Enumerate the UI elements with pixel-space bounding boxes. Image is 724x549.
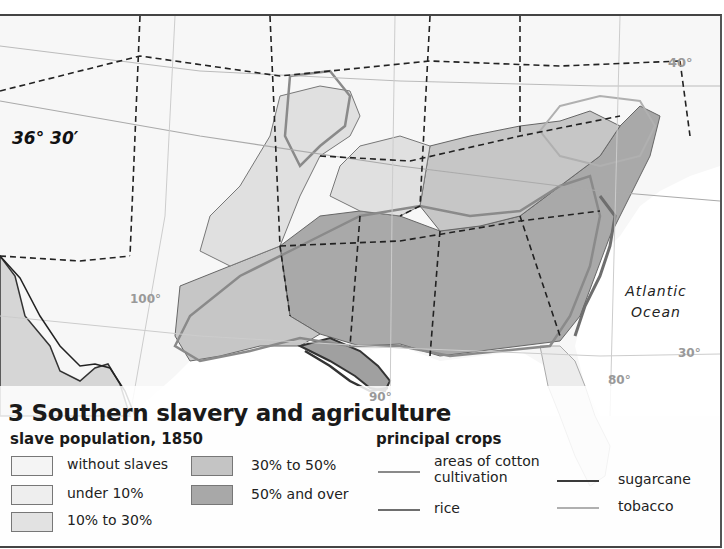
cotton-line-sample: [378, 471, 420, 473]
swatch-without-slaves: [11, 456, 53, 476]
legend-label-without-slaves: without slaves: [67, 456, 168, 472]
slave-population-legend-title: slave population, 1850: [10, 430, 203, 448]
legend-label-30-to-50: 30% to 50%: [251, 457, 336, 473]
legend-label-under-10: under 10%: [67, 485, 144, 501]
latitude-line-40: [0, 46, 720, 86]
legend-label-cotton-line2: cultivation: [434, 469, 540, 485]
legend-label-rice: rice: [434, 500, 460, 516]
longitude-80-label: 80°: [608, 373, 631, 387]
legend-label-sugarcane: sugarcane: [618, 471, 691, 487]
tobacco-line-sample: [557, 507, 599, 509]
map-frame: 36° 30′ 40° 30° 100° 90° 80° Atlantic Oc…: [0, 14, 722, 548]
parallel-36-30-label: 36° 30′: [12, 128, 78, 148]
legend-label-tobacco: tobacco: [618, 498, 673, 514]
swatch-under-10: [11, 485, 53, 505]
legend-label-cotton: areas of cotton cultivation: [434, 453, 540, 485]
region-10-to-30-2: [330, 136, 430, 216]
latitude-40-label: 40°: [668, 55, 693, 70]
legend-label-cotton-line1: areas of cotton: [434, 453, 540, 469]
swatch-30-to-50: [191, 456, 233, 476]
latitude-30-label: 30°: [678, 346, 701, 360]
rice-line-sample: [378, 509, 420, 511]
principal-crops-legend-title: principal crops: [376, 430, 501, 448]
longitude-100-label: 100°: [130, 292, 161, 306]
map-title: 3 Southern slavery and agriculture: [8, 400, 451, 426]
atlantic-ocean-label: Atlantic Ocean: [616, 281, 696, 323]
legend-label-10-to-30: 10% to 30%: [67, 512, 152, 528]
swatch-50-and-over: [191, 485, 233, 505]
ocean-label-line1: Atlantic: [616, 281, 696, 302]
swatch-10-to-30: [11, 512, 53, 532]
sugarcane-line-sample: [557, 480, 599, 482]
legend-label-50-and-over: 50% and over: [251, 486, 349, 502]
ocean-label-line2: Ocean: [616, 302, 696, 323]
